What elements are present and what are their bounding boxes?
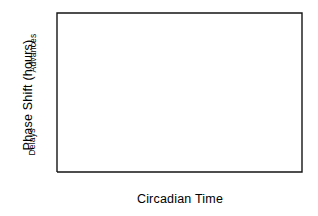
plot-area: [0, 0, 318, 216]
y-axis-region-label-advances: Advances: [28, 18, 38, 88]
y-axis-region-label-delays: Delays: [27, 114, 37, 170]
plot-frame: [57, 13, 302, 172]
axis-frame: [57, 13, 302, 172]
phase-response-curve-figure: Phase Shift (hours) Advances Delays Circ…: [0, 0, 318, 216]
x-axis-label: Circadian Time: [57, 192, 303, 206]
